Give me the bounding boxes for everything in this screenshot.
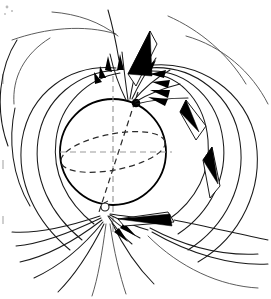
field-line-bottom-right-3 <box>148 236 258 288</box>
tick-arrow-n8 <box>148 97 168 106</box>
field-line-bottom-arrow-tail <box>174 220 268 240</box>
tick-arrow-n7 <box>150 90 170 98</box>
tick-arrow-n6 <box>152 80 170 88</box>
scan-artifacts <box>2 6 13 224</box>
diagram-canvas <box>0 0 271 299</box>
field-line-top-left-1 <box>12 28 116 40</box>
field-line-left-2 <box>0 40 17 146</box>
arrow-field-upper-right <box>180 100 206 140</box>
magnetic-dipole-figure: Magnetic dipole field of a rotating sphe… <box>0 0 271 299</box>
arrow-inflow-bottom <box>118 212 174 226</box>
arrow-field-lower-right <box>203 147 220 198</box>
field-line-top-right-1 <box>186 36 268 104</box>
field-line-top-left-2 <box>52 12 118 36</box>
field-line-bottom-left-5 <box>58 224 104 292</box>
arrow-outflow-top <box>128 31 157 86</box>
field-line-top-right-2 <box>168 16 246 84</box>
field-line-bottom-left-3 <box>20 220 102 262</box>
field-line-bottom-right-2 <box>150 228 258 254</box>
